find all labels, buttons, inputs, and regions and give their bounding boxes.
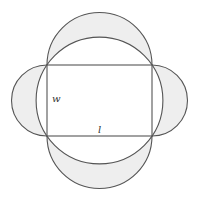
outlines <box>12 13 188 189</box>
shaded-lunes <box>12 13 188 189</box>
top-lune <box>47 13 152 66</box>
lunes-diagram: w l <box>0 0 197 199</box>
width-label: w <box>52 93 61 104</box>
bottom-lune <box>47 136 152 189</box>
length-label: l <box>98 124 101 135</box>
